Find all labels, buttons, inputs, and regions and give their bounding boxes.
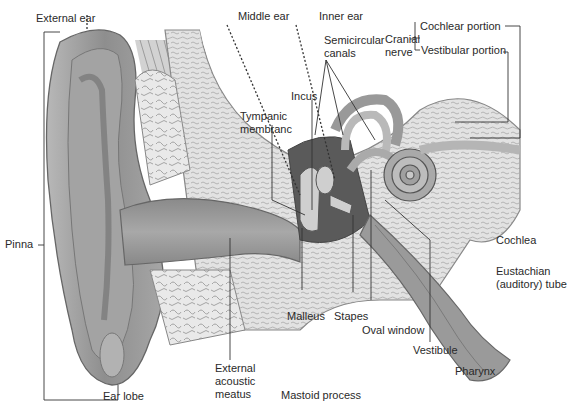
label-tympanic-membrane: Tympanic membranc — [240, 110, 292, 136]
label-semicircular-canals: Semicircular canals — [324, 34, 385, 60]
label-vestibule: Vestibule — [413, 344, 458, 357]
label-cochlea: Cochlea — [496, 234, 536, 247]
label-stapes: Stapes — [334, 310, 368, 323]
label-external-acoustic-meatus: External acoustic meatus — [215, 362, 255, 401]
label-mastoid-process: Mastoid process — [281, 389, 361, 402]
label-external-ear: External ear — [36, 12, 95, 25]
label-vestibular-portion: Vestibular portion — [421, 44, 506, 57]
label-malleus: Malleus — [287, 310, 325, 323]
label-cranial-nerve: Cranial nerve — [385, 33, 420, 59]
label-oval-window: Oval window — [362, 324, 424, 337]
label-eustachian-tube: Eustachian (auditory) tube — [496, 265, 567, 291]
label-inner-ear: Inner ear — [319, 10, 363, 23]
label-middle-ear: Middle ear — [238, 10, 289, 23]
label-incus: Incus — [291, 90, 317, 103]
label-pinna: Pinna — [5, 238, 33, 251]
label-cochlear-portion: Cochlear portion — [420, 20, 501, 33]
label-pharynx: Pharynx — [455, 365, 495, 378]
ear-anatomy-illustration — [0, 0, 569, 410]
label-ear-lobe: Ear lobe — [103, 390, 144, 403]
